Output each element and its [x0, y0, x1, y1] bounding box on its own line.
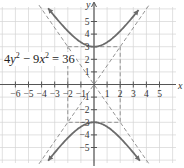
x-tick-label: 1	[105, 89, 110, 99]
x-tick-label: 2	[118, 89, 123, 99]
y-tick-label: 5	[85, 17, 90, 27]
y-tick-label: 2	[85, 55, 90, 65]
x-axis-label: x	[177, 80, 183, 91]
x-tick-label: −4	[37, 89, 47, 99]
x-tick-label: 3	[131, 89, 136, 99]
y-tick-label: −5	[79, 143, 89, 153]
y-tick-label: 4	[85, 29, 90, 39]
equation-label: 4y2 − 9x2 = 36	[3, 52, 76, 66]
y-tick-label: 1	[85, 67, 90, 77]
y-tick-label: −4	[79, 130, 89, 140]
y-tick-label: −1	[79, 92, 89, 102]
y-tick-label: 3	[85, 42, 90, 52]
x-tick-label: −2	[63, 89, 73, 99]
x-tick-label: 5	[157, 89, 162, 99]
y-axis-label: y	[85, 0, 91, 10]
x-tick-label: 4	[144, 89, 149, 99]
x-tick-label: −5	[23, 89, 33, 99]
y-tick-label: −2	[79, 105, 89, 115]
eq-rhs: = 36	[49, 52, 75, 66]
hyperbola-branch	[48, 8, 138, 46]
x-tick-label: −6	[10, 89, 20, 99]
y-tick-label: −3	[79, 118, 89, 128]
eq-minus: − 9	[20, 52, 40, 66]
x-tick-label: −3	[50, 89, 60, 99]
hyperbola-plot: −6−5−4−3−2−112345−5−4−3−2−112345 x y	[0, 0, 184, 168]
